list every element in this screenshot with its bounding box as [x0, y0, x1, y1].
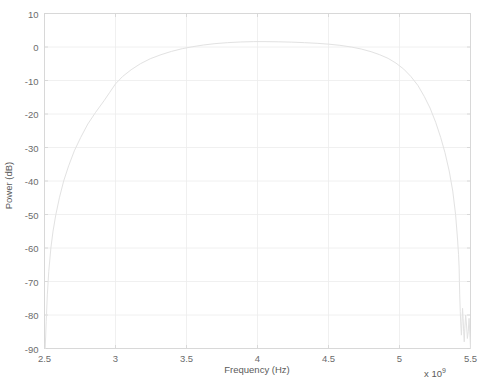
x-tick-label: 2.5	[38, 353, 51, 364]
exponent-power: 9	[442, 367, 446, 374]
plot-canvas	[0, 0, 489, 388]
y-tick-label: 0	[2, 42, 39, 53]
x-tick-label: 5	[397, 353, 402, 364]
x-tick-label: 4	[255, 353, 260, 364]
y-tick-label: -60	[2, 243, 39, 254]
exponent-prefix: x 10	[424, 368, 442, 379]
figure-container: 100-10-20-30-40-50-60-70-80-90 2.533.544…	[0, 0, 489, 388]
x-tick-label: 5.5	[464, 353, 477, 364]
x-tick-label: 3	[113, 353, 118, 364]
y-tick-label: -80	[2, 310, 39, 321]
y-tick-label: -20	[2, 109, 39, 120]
x-tick-label: 4.5	[322, 353, 335, 364]
x-axis-title: Frequency (Hz)	[224, 364, 289, 375]
y-tick-label: -30	[2, 142, 39, 153]
y-tick-label: -10	[2, 75, 39, 86]
y-tick-label: 10	[2, 8, 39, 19]
y-axis-title: Power (dB)	[3, 156, 14, 216]
y-tick-label: -70	[2, 276, 39, 287]
grid-lines	[45, 14, 471, 349]
y-tick-label: -90	[2, 343, 39, 354]
x-tick-label: 3.5	[180, 353, 193, 364]
x-axis-exponent-label: x 109	[424, 367, 446, 379]
